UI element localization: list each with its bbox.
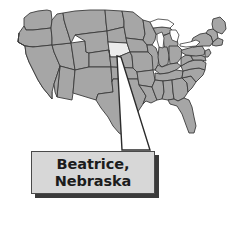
state-minnesota [122,11,145,40]
state-new-jersey [205,49,211,57]
locator-map-figure: Beatrice, Nebraska [0,0,236,237]
location-callout: Beatrice, Nebraska [31,151,155,194]
state-pennsylvania [181,46,205,56]
state-florida [168,98,196,133]
callout-box: Beatrice, Nebraska [31,151,155,194]
lake-michigan [157,32,164,48]
lake-superior [150,19,174,28]
united-states-map [0,0,236,237]
callout-city-line: Beatrice, [57,156,130,173]
state-ohio [169,46,182,64]
state-colorado [89,50,111,67]
state-indiana [158,47,169,67]
state-washington [24,10,52,30]
callout-state-line: Nebraska [55,173,132,190]
state-arkansas [137,70,155,87]
